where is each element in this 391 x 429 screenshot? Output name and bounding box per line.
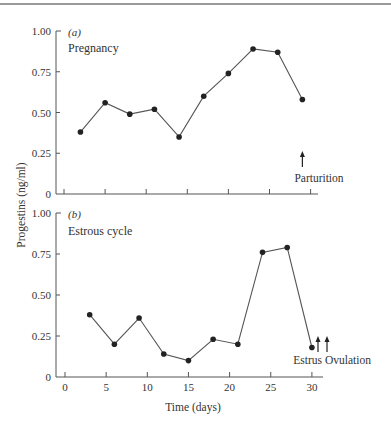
y-tick-label: 0.25 <box>32 147 52 159</box>
data-point <box>300 97 306 103</box>
data-point <box>102 100 108 106</box>
y-tick-label: 0.50 <box>32 289 52 301</box>
x-tick-label: 25 <box>265 381 277 393</box>
panel-pregnancy: 00.250.500.751.00(a)PregnancyParturition <box>32 25 344 200</box>
panel-tag: (a) <box>68 26 81 39</box>
data-point <box>136 315 142 321</box>
data-point <box>309 345 315 351</box>
arrow-head-icon <box>300 151 305 157</box>
x-tick-label: 0 <box>62 381 68 393</box>
data-point <box>201 93 207 99</box>
data-point <box>176 134 182 140</box>
progestins-chart: Progestins (ng/ml) 00.250.500.751.00(a)P… <box>0 0 391 429</box>
x-tick-label: 10 <box>142 381 154 393</box>
data-point <box>152 106 158 112</box>
y-tick-label: 1.00 <box>32 207 52 219</box>
y-tick-label: 1.00 <box>32 25 52 37</box>
data-point <box>127 111 133 117</box>
annotation-parturition: Parturition <box>294 172 343 184</box>
panel-title: Pregnancy <box>68 41 119 55</box>
data-point <box>250 46 256 52</box>
panel-tag: (b) <box>68 208 81 221</box>
y-axis-title: Progestins (ng/ml) <box>15 162 28 247</box>
y-tick-label: 0.75 <box>32 248 52 260</box>
x-tick-label: 20 <box>224 381 236 393</box>
annotation-ovulation: Ovulation <box>325 354 371 366</box>
y-tick-label: 0 <box>46 188 52 200</box>
data-series-line <box>80 49 302 137</box>
data-point <box>186 358 192 364</box>
data-point <box>210 336 216 342</box>
x-tick-label: 15 <box>183 381 195 393</box>
data-point <box>284 245 290 251</box>
data-point <box>161 351 167 357</box>
y-tick-label: 0.25 <box>32 330 52 342</box>
data-point <box>87 312 93 318</box>
data-point <box>260 250 266 256</box>
panel-estrous-cycle: 00.250.500.751.00051015202530(b)Estrous … <box>32 207 371 393</box>
x-tick-label: 30 <box>306 381 318 393</box>
data-point <box>226 71 232 77</box>
arrow-head-icon <box>325 336 330 342</box>
y-tick-label: 0.50 <box>32 107 52 119</box>
y-tick-label: 0.75 <box>32 66 52 78</box>
data-point <box>112 341 118 347</box>
x-tick-label: 5 <box>103 381 109 393</box>
data-series-line <box>90 247 312 360</box>
data-point <box>78 129 84 135</box>
data-point <box>235 341 241 347</box>
y-tick-label: 0 <box>46 371 52 383</box>
panel-title: Estrous cycle <box>68 224 132 238</box>
x-axis-title: Time (days) <box>165 401 221 414</box>
annotation-estrus: Estrus <box>293 354 322 366</box>
arrow-head-icon <box>316 336 321 342</box>
data-point <box>275 49 281 55</box>
